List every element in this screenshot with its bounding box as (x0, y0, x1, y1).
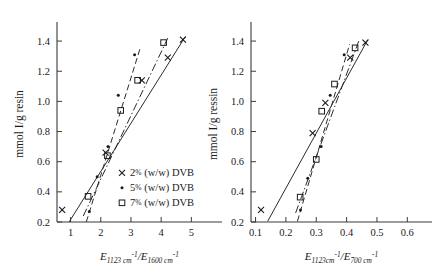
data-point-cross (180, 37, 186, 43)
data-point-square (319, 108, 325, 114)
y-tick-label: 1.0 (37, 96, 50, 107)
x-tick-label: 0.2 (279, 227, 292, 238)
y-tick-label: 0.6 (37, 156, 50, 167)
legend-label: 7% (w/w) DVB (130, 197, 194, 209)
legend: 2% (w/w) DVB5% (w/w) DVB7% (w/w) DVB (119, 167, 194, 209)
data-point-cross (165, 55, 171, 61)
x-axis-title: E1123cm-1/E700 cm-1 (304, 250, 378, 265)
figure-container: 0.20.40.60.81.01.21.412345mmol I/g resin… (0, 0, 434, 275)
data-point-dot (88, 210, 91, 213)
data-point-dot (133, 53, 136, 56)
y-axis-title: mmol I/g ressin (207, 88, 220, 160)
y-tick-label: 0.2 (231, 217, 244, 228)
y-tick-label: 0.4 (37, 186, 51, 197)
legend-marker-dot (121, 186, 124, 189)
data-point-cross (258, 207, 264, 213)
y-tick-label: 0.6 (231, 156, 244, 167)
legend-label: 5% (w/w) DVB (130, 182, 194, 194)
y-tick-label: 1.4 (37, 36, 51, 47)
data-point-dot (299, 208, 302, 211)
y-tick-label: 0.8 (231, 126, 244, 137)
x-axis-title: E1123 cm-1/E1600 cm-1 (99, 250, 179, 265)
x-tick-label: 2 (98, 227, 103, 238)
fit-line (69, 37, 185, 222)
fit-line (297, 44, 349, 221)
data-point-dot (96, 175, 99, 178)
x-tick-label: 0.5 (370, 227, 383, 238)
fit-line (296, 41, 359, 213)
data-point-dot (320, 145, 323, 148)
data-point-cross (322, 100, 328, 106)
data-point-dot (343, 53, 346, 56)
x-tick-label: 3 (128, 227, 133, 238)
y-tick-label: 1.2 (231, 66, 244, 77)
data-point-cross (139, 77, 145, 83)
legend-marker-square (119, 200, 125, 206)
fit-line (268, 40, 368, 222)
y-axis-title: mmol I/g resin (13, 90, 26, 158)
data-point-square (332, 81, 338, 87)
data-point-dot (306, 177, 309, 180)
y-tick-label: 0.8 (37, 126, 50, 137)
data-point-dot (107, 145, 110, 148)
y-tick-label: 1.4 (231, 36, 245, 47)
y-tick-label: 0.2 (37, 217, 50, 228)
x-tick-label: 0.4 (340, 227, 354, 238)
x-tick-label: 4 (159, 227, 165, 238)
fit-line (86, 49, 140, 222)
y-tick-label: 1.0 (231, 96, 244, 107)
legend-marker-cross (119, 170, 125, 176)
data-point-cross (310, 130, 316, 136)
chart-canvas: 0.20.40.60.81.01.21.412345mmol I/g resin… (0, 0, 434, 275)
data-point-dot (329, 94, 332, 97)
data-point-cross (59, 207, 65, 213)
right-panel: 0.20.40.60.81.01.21.40.10.20.30.40.50.6m… (207, 22, 432, 265)
x-tick-label: 0.6 (401, 227, 414, 238)
y-tick-label: 1.2 (37, 66, 50, 77)
y-tick-label: 0.4 (231, 186, 245, 197)
x-tick-label: 1 (68, 227, 73, 238)
left-panel: 0.20.40.60.81.01.21.412345mmol I/g resin… (13, 22, 222, 265)
x-tick-label: 0.1 (249, 227, 262, 238)
x-tick-label: 0.3 (310, 227, 323, 238)
x-tick-label: 5 (189, 227, 194, 238)
legend-label: 2% (w/w) DVB (130, 167, 194, 179)
data-point-dot (117, 94, 120, 97)
